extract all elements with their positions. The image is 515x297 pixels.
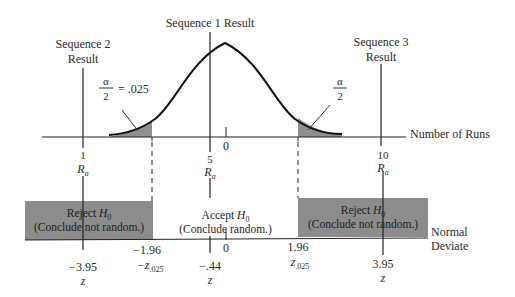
accept-note: (Conclude random.) bbox=[153, 222, 298, 236]
deviate-label: Deviate bbox=[431, 239, 468, 253]
ra-symbol-10: Ra bbox=[377, 161, 388, 180]
ra-value-10: 10 bbox=[378, 148, 389, 162]
right-alpha-pointer bbox=[308, 105, 330, 130]
left-alpha-numerator: α bbox=[103, 74, 109, 88]
ra-symbol-5: Ra bbox=[204, 165, 215, 184]
sequence-3-label-line1: Sequence 3 bbox=[354, 35, 409, 49]
sequence-2-label-line1: Sequence 2 bbox=[56, 37, 111, 51]
ra-value-1: 1 bbox=[80, 148, 86, 162]
z-symbol-left: z bbox=[81, 274, 86, 288]
pos-z025-label: z.025 bbox=[291, 255, 310, 274]
z-symbol-right: z bbox=[381, 271, 386, 285]
ra-symbol-1: Ra bbox=[77, 162, 88, 181]
neg-196-label: −1.96 bbox=[133, 243, 161, 257]
left-reject-note: (Conclude not random.) bbox=[25, 220, 153, 234]
sequence-3-label-line2: Result bbox=[366, 50, 397, 64]
neg-044-label: −.44 bbox=[199, 259, 221, 273]
z-symbol-center: z bbox=[208, 273, 213, 287]
neg-395-label: −3.95 bbox=[69, 260, 97, 274]
normal-label: Normal bbox=[431, 225, 468, 239]
runs-test-diagram: Sequence 1 Result Sequence 2 Result Sequ… bbox=[0, 0, 515, 297]
ra-value-5: 5 bbox=[207, 152, 213, 166]
right-reject-note: (Conclude not random.) bbox=[298, 217, 428, 231]
right-alpha-denominator: 2 bbox=[337, 89, 343, 103]
pos-196-label: 1.96 bbox=[288, 240, 309, 254]
pos-395-label: 3.95 bbox=[373, 257, 394, 271]
neg-z025-label: −z.025 bbox=[137, 258, 164, 277]
right-alpha-numerator: α bbox=[337, 74, 343, 88]
left-alpha-denominator: 2 bbox=[103, 89, 109, 103]
sequence-2-label-line2: Result bbox=[68, 52, 99, 66]
left-alpha-value: = .025 bbox=[118, 82, 149, 96]
left-alpha-pointer bbox=[122, 110, 138, 131]
bottom-zero-label: 0 bbox=[223, 241, 229, 255]
number-of-runs-label: Number of Runs bbox=[410, 127, 490, 141]
sequence-1-label: Sequence 1 Result bbox=[166, 16, 255, 30]
top-zero-label: 0 bbox=[223, 139, 229, 153]
